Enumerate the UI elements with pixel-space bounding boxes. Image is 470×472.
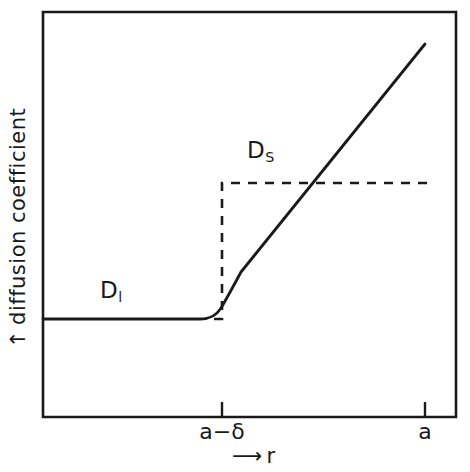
solid-diffusion-label-base: D (247, 137, 265, 163)
x-axis-label-text: r (267, 444, 276, 468)
liquid-diffusion-label: Dl (100, 277, 122, 303)
xtick-label-a-minus-delta: a−δ (182, 419, 262, 444)
x-axis-label: ⟶r (232, 444, 276, 468)
y-axis-arrow-icon: ↑ (6, 330, 30, 348)
solid-diffusion-label: DS (247, 137, 274, 163)
liquid-diffusion-label-sub: l (118, 289, 122, 305)
step-profile-dashed (214, 183, 432, 319)
y-axis-label: ↑diffusion coefficient (6, 108, 30, 348)
x-axis-arrow-icon: ⟶ (232, 444, 263, 468)
axis-frame (43, 12, 456, 417)
y-axis-label-text: diffusion coefficient (6, 108, 30, 325)
liquid-diffusion-label-base: D (100, 277, 118, 303)
solid-diffusion-label-sub: S (265, 149, 275, 165)
xtick-label-a: a (395, 419, 455, 444)
diffusion-coefficient-figure: ↑diffusion coefficient ⟶r a−δ a Dl DS (0, 0, 470, 472)
plot-canvas (0, 0, 470, 472)
